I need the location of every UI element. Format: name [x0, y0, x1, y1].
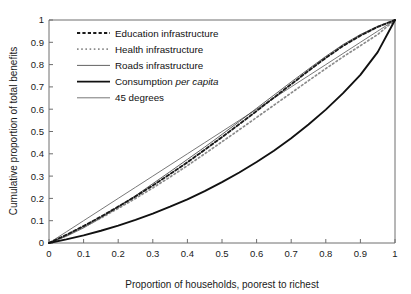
y-tick-label: 0.4: [31, 148, 44, 159]
x-axis-title: Proportion of households, poorest to ric…: [125, 279, 319, 290]
x-tick-label: 0.2: [112, 248, 125, 259]
x-tick-label: 0: [46, 248, 51, 259]
y-tick-label: 1: [39, 14, 44, 25]
chart-container: 00.10.20.30.40.50.60.70.80.91 00.10.20.3…: [0, 0, 411, 294]
x-tick-label: 0.8: [319, 248, 332, 259]
x-tick-label: 0.4: [181, 248, 194, 259]
x-tick-label: 0.6: [250, 248, 263, 259]
lorenz-curve-chart: 00.10.20.30.40.50.60.70.80.91 00.10.20.3…: [0, 0, 411, 294]
y-tick-label: 0.7: [31, 81, 44, 92]
y-tick-label: 0.9: [31, 37, 44, 48]
y-tick-label: 0.1: [31, 215, 44, 226]
y-tick-label: 0.8: [31, 59, 44, 70]
y-tick-label: 0.5: [31, 126, 44, 137]
y-tick-label: 0.6: [31, 104, 44, 115]
legend-label: Consumption per capita: [115, 76, 219, 87]
legend-label: Roads infrastructure: [115, 60, 204, 71]
x-tick-label: 0.7: [285, 248, 298, 259]
x-tick-label: 0.1: [77, 248, 90, 259]
x-tick-label: 0.5: [215, 248, 228, 259]
y-axis-title: Cumulative proportion of total benefits: [8, 47, 19, 215]
legend-label: Education infrastructure: [115, 28, 219, 39]
y-tick-label: 0.2: [31, 193, 44, 204]
legend-label: Health infrastructure: [115, 44, 204, 55]
x-tick-label: 0.9: [354, 248, 367, 259]
y-tick-label: 0.3: [31, 171, 44, 182]
legend-label: 45 degrees: [115, 92, 164, 103]
x-axis-tick-labels: 00.10.20.30.40.50.60.70.80.91: [46, 248, 397, 259]
y-axis-tick-labels: 00.10.20.30.40.50.60.70.80.91: [31, 14, 44, 248]
x-tick-label: 1: [392, 248, 397, 259]
y-tick-label: 0: [39, 237, 44, 248]
x-tick-label: 0.3: [146, 248, 159, 259]
